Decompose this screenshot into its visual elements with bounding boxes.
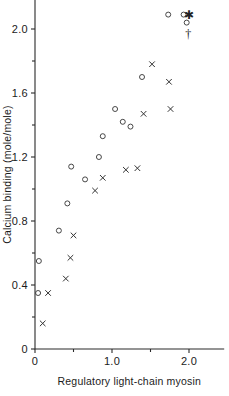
data-point-circle: [65, 201, 70, 206]
data-point-cross: [92, 188, 98, 194]
y-tick-label: 2.0: [12, 23, 28, 35]
y-tick-label: 0.8: [12, 215, 28, 227]
y-tick-label: 0: [22, 343, 28, 355]
data-point-circle: [83, 177, 88, 182]
asterisk-marker: ✱: [184, 8, 194, 22]
data-point-cross: [123, 167, 129, 173]
data-point-cross: [40, 321, 46, 327]
data-point-cross: [166, 79, 172, 85]
scatter-plot-figure: 00.40.81.21.62.001.02.0 ✱† Regulatory li…: [0, 0, 229, 396]
x-tick-label: 1.0: [104, 355, 120, 367]
dagger-marker: †: [185, 27, 191, 41]
data-point-circle: [140, 75, 145, 80]
data-point-circle: [69, 164, 74, 169]
axis-spines: [35, 0, 224, 349]
data-point-circle: [120, 119, 125, 124]
data-point-cross: [63, 276, 69, 282]
y-axis-title: Calcium binding (mole/mole): [1, 105, 13, 243]
data-point-cross: [68, 255, 74, 261]
x-tick-label: 2.0: [181, 355, 197, 367]
y-tick-label: 1.6: [12, 87, 28, 99]
axes: [35, 0, 224, 349]
y-tick-label: 0.4: [12, 279, 28, 291]
data-point-cross: [45, 290, 51, 296]
data-point-circle: [100, 134, 105, 139]
data-point-circle: [56, 228, 61, 233]
tick-labels: 00.40.81.21.62.001.02.0: [12, 23, 197, 367]
data-point-cross: [141, 111, 147, 117]
data-point-circle: [36, 259, 41, 264]
axis-titles: Regulatory light-chain myosinCalcium bin…: [1, 105, 201, 387]
data-point-cross: [100, 175, 106, 181]
data-point-cross: [71, 233, 77, 239]
data-points: [36, 12, 190, 326]
tick-marks: [31, 29, 189, 353]
data-point-cross: [168, 106, 174, 112]
data-point-circle: [166, 12, 171, 17]
data-point-circle: [36, 291, 41, 296]
data-point-cross: [135, 165, 141, 171]
data-point-circle: [128, 124, 133, 129]
x-tick-label: 0: [32, 355, 38, 367]
y-tick-label: 1.2: [12, 151, 28, 163]
plot-canvas: 00.40.81.21.62.001.02.0 ✱† Regulatory li…: [0, 0, 229, 396]
data-point-cross: [149, 61, 155, 67]
data-point-circle: [113, 107, 118, 112]
data-point-circle: [96, 155, 101, 160]
x-axis-title: Regulatory light-chain myosin: [58, 375, 202, 387]
